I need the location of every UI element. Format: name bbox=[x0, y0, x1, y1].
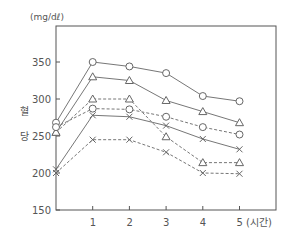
y-tick-label: 250 bbox=[32, 131, 51, 142]
x-tick-label: 5 (시간) bbox=[237, 217, 272, 228]
y-tick-label: 150 bbox=[32, 205, 51, 216]
series-solid-circle bbox=[53, 59, 244, 127]
x-axis: 12345 (시간) bbox=[90, 206, 272, 228]
circle-marker-icon bbox=[163, 70, 170, 77]
triangle-marker-icon bbox=[125, 95, 133, 102]
y-axis-label-char-2: 당 bbox=[20, 131, 29, 142]
circle-marker-icon bbox=[126, 63, 133, 70]
circle-marker-icon bbox=[163, 113, 170, 120]
triangle-marker-icon bbox=[236, 159, 244, 166]
circle-marker-icon bbox=[89, 105, 96, 112]
y-tick-label: 300 bbox=[32, 94, 51, 105]
y-tick-label: 350 bbox=[32, 57, 51, 68]
blood-sugar-line-chart: (mg/dℓ) 150200250300350 12345 (시간) 혈 당 bbox=[0, 0, 290, 241]
circle-marker-icon bbox=[199, 93, 206, 100]
triangle-marker-icon bbox=[162, 133, 170, 140]
circle-marker-icon bbox=[126, 106, 133, 113]
x-marker-icon bbox=[163, 123, 169, 129]
x-marker-icon bbox=[200, 136, 206, 142]
triangle-marker-icon bbox=[89, 73, 97, 80]
circle-marker-icon bbox=[199, 124, 206, 131]
triangle-marker-icon bbox=[89, 95, 97, 102]
circle-marker-icon bbox=[53, 124, 60, 131]
circle-marker-icon bbox=[236, 131, 243, 138]
x-marker-icon bbox=[126, 137, 132, 143]
x-tick-label: 3 bbox=[163, 217, 169, 228]
x-marker-icon bbox=[163, 149, 169, 155]
series-group bbox=[52, 59, 244, 177]
x-tick-label: 2 bbox=[126, 217, 132, 228]
circle-marker-icon bbox=[236, 98, 243, 105]
triangle-marker-icon bbox=[162, 96, 170, 103]
x-marker-icon bbox=[237, 146, 243, 152]
x-tick-label: 4 bbox=[200, 217, 206, 228]
circle-marker-icon bbox=[89, 59, 96, 66]
y-tick-label: 200 bbox=[32, 168, 51, 179]
triangle-marker-icon bbox=[199, 159, 207, 166]
y-axis-label-char-1: 혈 bbox=[20, 105, 29, 117]
x-marker-icon bbox=[200, 170, 206, 176]
x-tick-label: 1 bbox=[90, 217, 96, 228]
series-solid-x bbox=[53, 112, 243, 172]
series-dashed-triangle bbox=[52, 95, 244, 166]
series-dashed-x bbox=[53, 137, 243, 177]
unit-label: (mg/dℓ) bbox=[30, 12, 64, 22]
